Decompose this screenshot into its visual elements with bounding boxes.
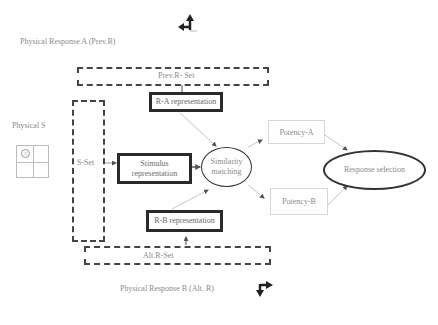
potency-a-label: Potency-A	[279, 128, 313, 137]
prev-r-set-label: Prev.R- Set	[158, 71, 194, 80]
grid-with-smiley-icon: ☺	[16, 145, 49, 178]
alt-r-set-box	[84, 246, 271, 265]
potency-b-label: Potency-B	[282, 197, 316, 206]
r-b-representation-node: R-B representation	[146, 210, 223, 232]
response-selection-label: Response selection	[344, 165, 405, 175]
physical-s-label: Physical S	[12, 121, 46, 130]
similarity-matching-node: Similarity matching	[201, 147, 252, 187]
stimulus-representation-node: Stimulus representation	[117, 153, 192, 184]
alt-r-set-label: Alt.R-Set	[143, 251, 173, 260]
r-a-representation-node: R-A representation	[149, 92, 223, 112]
r-b-representation-label: R-B representation	[154, 216, 215, 225]
physical-response-b-label: Physical Response B (Alt. R)	[120, 284, 214, 293]
potency-a-node: Potency-A	[268, 120, 325, 144]
stimulus-representation-label: Stimulus representation	[132, 159, 177, 177]
similarity-matching-label: Similarity matching	[211, 157, 243, 176]
r-a-representation-label: R-A representation	[156, 97, 217, 106]
arrow-right-down-turn-icon	[254, 278, 274, 298]
response-selection-node: Response selection	[323, 150, 426, 190]
s-set-box	[72, 100, 105, 242]
s-set-label: S-Set	[77, 158, 94, 167]
potency-b-node: Potency-B	[270, 188, 328, 215]
